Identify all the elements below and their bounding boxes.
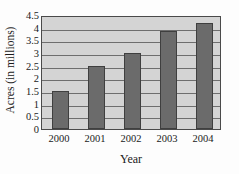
x-axis-tick-labels: 20002001200220032004 (41, 132, 221, 148)
y-axis-tick-label: 1 (14, 99, 39, 111)
x-axis-tick-label: 2004 (183, 132, 223, 146)
y-axis-tick-label: 2.5 (14, 61, 39, 73)
y-axis-tick-label: 0.5 (14, 111, 39, 123)
y-axis-tick-label: 3.5 (14, 35, 39, 47)
x-axis-tick-label: 2003 (147, 132, 187, 146)
x-axis-title: Year (41, 151, 221, 167)
x-axis-tick-label: 2001 (75, 132, 115, 146)
bar-series (42, 17, 220, 129)
bar-chart: Acres (in millions) 00.511.522.533.544.5… (0, 0, 239, 174)
bar (196, 23, 213, 129)
bar (160, 31, 177, 129)
y-axis-tick-label: 4.5 (14, 10, 39, 22)
bar (124, 53, 141, 129)
bar (88, 66, 105, 129)
y-axis-tick-label: 2 (14, 73, 39, 85)
y-axis-tick-labels: 00.511.522.533.544.5 (14, 16, 39, 130)
y-axis-tick-label: 1.5 (14, 86, 39, 98)
bar (52, 91, 69, 129)
y-axis-tick-label: 4 (14, 23, 39, 35)
x-axis-tick-label: 2002 (111, 132, 151, 146)
x-axis-tick-label: 2000 (39, 132, 79, 146)
y-axis-tick-label: 0 (14, 124, 39, 136)
plot-area (41, 16, 221, 130)
y-axis-tick-label: 3 (14, 48, 39, 60)
